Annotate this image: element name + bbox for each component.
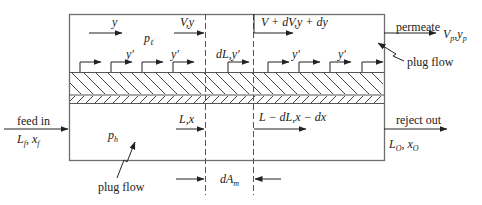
label-plug-flow-feed: plug flow <box>98 181 144 193</box>
membrane-skin-layer <box>68 96 381 103</box>
area-sub: m <box>233 179 239 188</box>
reject-L: L <box>389 137 396 151</box>
label-permeate-V-dV: V + dV,y + dy <box>261 16 328 28</box>
label-local-y-prime-1: y′ <box>126 48 134 60</box>
membrane-porous-support <box>60 73 393 94</box>
label-feed-pressure: ph <box>108 129 118 144</box>
reject-x-sub: O <box>413 144 419 153</box>
label-feed-L-dL: L − dL,x − dx <box>259 111 326 123</box>
feed-pressure-sub: h <box>114 135 118 144</box>
label-local-y-prime-4: y′ <box>338 48 346 60</box>
label-local-y-prime-2: y′ <box>171 48 179 60</box>
label-permeate-Vy: V,y <box>180 16 194 28</box>
plug-flow-pointer-permeate <box>378 43 404 61</box>
feed-x-sub: f <box>37 139 39 148</box>
permeate-y-sub: p <box>463 34 467 43</box>
label-permeate-pressure: pℓ <box>144 32 153 47</box>
label-reject-out-value: LO, xO <box>389 138 419 153</box>
area-dA: dA <box>220 172 233 186</box>
label-local-dL-y-prime: dL,y′ <box>216 48 240 60</box>
label-element-area: dAm <box>220 173 239 188</box>
membrane-separator-diagram: y pℓ V,y V + dV,y + dy y′ y′ dL,y′ y′ y′… <box>0 0 482 205</box>
feed-L: L <box>17 132 24 146</box>
label-permeate-outlet-value: Vp,yp <box>443 28 467 43</box>
label-plug-flow-permeate: plug flow <box>407 56 453 68</box>
label-permeate-y: y <box>112 16 117 28</box>
local-permeate-arrows <box>80 62 383 72</box>
label-permeate-outlet: permeate <box>396 21 440 33</box>
label-permeate-pressure-sub: ℓ <box>150 38 153 47</box>
label-feed-Lx: L,x <box>179 113 194 125</box>
label-local-y-prime-3: y′ <box>292 48 300 60</box>
label-feed-in: feed in <box>17 115 50 127</box>
label-reject-out: reject out <box>396 114 441 126</box>
label-feed-in-value: Lf, xf <box>17 133 39 148</box>
